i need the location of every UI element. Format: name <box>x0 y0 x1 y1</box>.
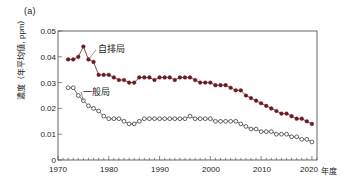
figure-container: (a) 濃度（年平均値, ppm） 0.05 0.04 0.03 0.02 0.… <box>0 0 343 187</box>
chart-plot-area <box>0 0 343 187</box>
